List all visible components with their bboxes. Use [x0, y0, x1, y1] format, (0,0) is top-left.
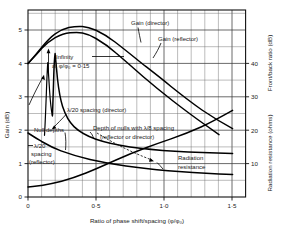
xtick-label-10: 1·0 — [160, 202, 170, 209]
annotation-gain-director: Gain (director) — [131, 20, 169, 26]
ytick-label-3: 3 — [19, 93, 23, 100]
annotation-depth-of-nulls-line1: Depth of nulls with λ/8 spacing — [93, 125, 174, 131]
xtick-label-15: 1·5 — [228, 202, 238, 209]
chart-figure: 1 2 3 4 5 0 Gain (dB) 40 30 Front/back r… — [0, 0, 296, 239]
x-axis-title: Ratio of phase shift/spacing (φ/φ₀) — [90, 217, 184, 224]
right-ytick-label-40: 40 — [251, 60, 258, 67]
chart-background — [0, 0, 296, 239]
ytick-label-2: 2 — [19, 127, 23, 134]
annotation-lambda20-reflector-line1: λ/20 — [34, 143, 46, 149]
annotation-lambda20-director: λ/20 spacing (director) — [67, 107, 126, 113]
annotation-null-depths: Null depths — [34, 127, 64, 133]
ytick-label-0: 0 — [19, 193, 23, 200]
xtick-label-0: 0 — [26, 202, 30, 209]
y-axis-title-left: Gain (dB) — [3, 112, 10, 138]
right-ytick-label-20: 20 — [251, 127, 258, 134]
annotation-lambda20-reflector-line3: (reflector) — [29, 159, 55, 165]
y-axis-title-right-bottom: Radiation resistance (ohms) — [266, 114, 273, 191]
right-ytick-label-10: 10 — [251, 160, 258, 167]
annotation-lambda20-reflector-line2: spacing — [31, 151, 52, 157]
annotation-infinity-line1: Infinity — [56, 54, 73, 60]
chart-svg: 1 2 3 4 5 0 Gain (dB) 40 30 Front/back r… — [0, 0, 296, 239]
annotation-radiation-resistance-line1: Radiation — [178, 155, 203, 161]
right-ytick-label-30: 30 — [251, 93, 258, 100]
annotation-infinity-line2: at φ/φ₀ = 0·15 — [52, 63, 90, 69]
annotation-gain-reflector: Gain (reflector) — [158, 36, 198, 42]
ytick-label-4: 4 — [19, 60, 23, 67]
y-axis-title-right-top-line1: Front/back ratio (dB) — [266, 35, 273, 91]
xtick-label-05: 0·5 — [92, 202, 102, 209]
annotation-depth-of-nulls-line2: (reflector or director) — [100, 134, 154, 140]
ytick-label-5: 5 — [19, 26, 23, 33]
annotation-radiation-resistance-line2: resistance — [178, 164, 206, 170]
ytick-label-1: 1 — [19, 160, 23, 167]
